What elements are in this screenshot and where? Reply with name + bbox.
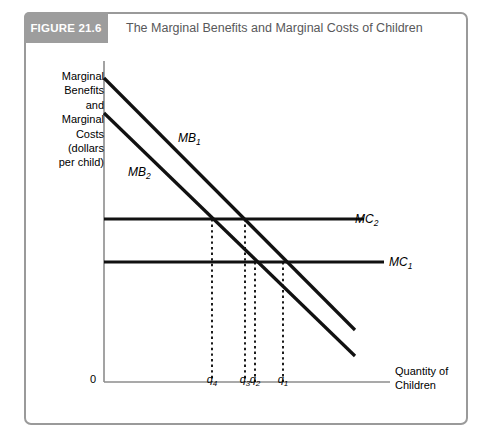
figure-title-container: The Marginal Benefits and Marginal Costs… bbox=[108, 12, 468, 43]
curve-label-mb2: MB2 bbox=[128, 165, 151, 181]
curve-label-mb1: MB1 bbox=[178, 131, 201, 147]
tick-label-q1: q1 bbox=[273, 373, 293, 388]
x-axis-label: Quantity of Children bbox=[395, 364, 467, 392]
figure-number-badge: FIGURE 21.6 bbox=[24, 12, 108, 43]
plot-area: Marginal Benefits and Marginal Costs (do… bbox=[24, 43, 468, 425]
origin-label: 0 bbox=[90, 373, 96, 385]
curve-label-mc2: MC2 bbox=[355, 212, 378, 228]
tick-label-q2: q2 bbox=[245, 373, 265, 388]
figure-header: FIGURE 21.6 The Marginal Benefits and Ma… bbox=[24, 12, 468, 43]
tick-label-q4: q4 bbox=[202, 373, 222, 388]
curve-label-mc1: MC1 bbox=[389, 255, 412, 271]
figure-container: FIGURE 21.6 The Marginal Benefits and Ma… bbox=[0, 0, 496, 448]
y-axis-label: Marginal Benefits and Marginal Costs (do… bbox=[30, 69, 104, 170]
curve-mb2 bbox=[104, 113, 355, 356]
figure-title: The Marginal Benefits and Marginal Costs… bbox=[126, 21, 423, 35]
figure-number-label: FIGURE 21.6 bbox=[30, 22, 101, 34]
curve-mb1 bbox=[104, 78, 355, 330]
